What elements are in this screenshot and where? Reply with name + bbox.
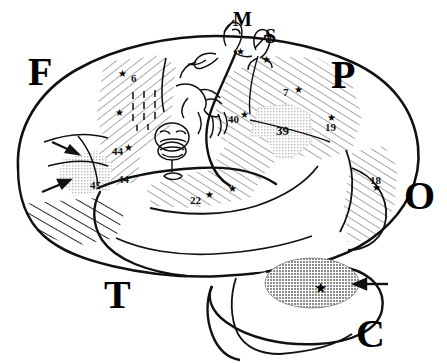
lobe-label-temporal: T — [104, 275, 131, 315]
arrow-frontal-upper — [52, 142, 78, 154]
brodmann-area-44b: 44 — [118, 174, 129, 185]
star-sensory-top: ★ — [262, 55, 271, 65]
brodmann-area-44: 44 — [112, 146, 123, 157]
brain-diagram-figure: FPOTCMS 674039191844444522 ★★★★★★★★★★★★ — [0, 0, 447, 363]
star-area-18: ★ — [372, 183, 381, 193]
star-area-40: ★ — [240, 110, 249, 120]
lobe-label-frontal: F — [28, 52, 52, 92]
star-area-7: ★ — [294, 85, 303, 95]
region-orbital-frontal-band — [22, 198, 126, 246]
star-area-6-upper: ★ — [118, 69, 127, 79]
lobe-label-motor: M — [233, 9, 252, 29]
brodmann-area-40: 40 — [228, 114, 239, 125]
star-motor-top: ★ — [236, 47, 245, 57]
lobe-label-sensory: S — [265, 26, 276, 46]
star-cerebellum: ★ — [314, 281, 327, 296]
star-area-6-lower: ★ — [115, 108, 124, 118]
superior-frontal-sulcus — [44, 135, 108, 142]
brodmann-area-19: 19 — [325, 122, 336, 133]
brodmann-area-7: 7 — [283, 87, 289, 98]
star-area-22-left: ★ — [205, 190, 214, 200]
brodmann-area-22: 22 — [190, 195, 201, 206]
star-area-44: ★ — [124, 143, 133, 153]
brodmann-area-6: 6 — [131, 73, 137, 84]
star-area-19: ★ — [327, 113, 336, 123]
region-cerebellar-focus — [265, 258, 359, 308]
star-area-22-right: ★ — [228, 184, 237, 194]
lobe-label-occipital: O — [404, 176, 435, 216]
brodmann-area-39: 39 — [276, 124, 289, 137]
lobe-label-parietal: P — [331, 55, 355, 95]
inferior-temporal-sulcus — [116, 236, 312, 254]
brodmann-area-45: 45 — [90, 180, 101, 191]
lobe-label-cerebellum: C — [356, 314, 385, 354]
